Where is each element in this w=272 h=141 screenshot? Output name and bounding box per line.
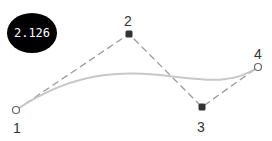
point-label: 3 [197, 119, 205, 135]
value-badge: 2.126 [7, 13, 57, 53]
filled-point-marker-icon[interactable] [199, 104, 206, 111]
control-point-4[interactable]: 4 [254, 46, 262, 71]
bezier-curve [16, 67, 258, 110]
filled-point-marker-icon[interactable] [126, 31, 133, 38]
hollow-point-marker-icon[interactable] [13, 107, 20, 114]
control-polygon [16, 34, 258, 110]
control-point-1[interactable]: 1 [13, 107, 22, 137]
point-label: 4 [254, 46, 262, 62]
badge-value: 2.126 [14, 26, 50, 40]
hollow-point-marker-icon[interactable] [255, 64, 262, 71]
point-label: 1 [13, 120, 21, 136]
bezier-diagram: 1234 2.126 [0, 0, 272, 141]
point-label: 2 [124, 13, 132, 29]
control-point-3[interactable]: 3 [197, 104, 206, 136]
control-point-2[interactable]: 2 [124, 13, 133, 38]
